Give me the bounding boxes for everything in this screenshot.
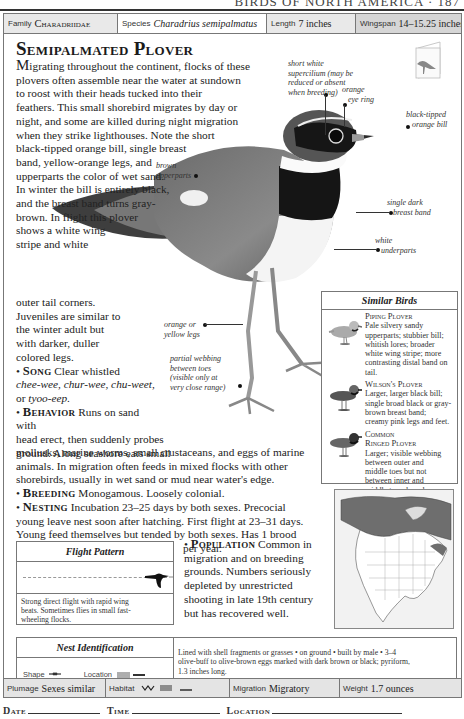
annotation-line: white xyxy=(375,236,416,246)
flight-desc-line: beats. Sometimes flies in small fast- xyxy=(21,606,169,615)
intro-line: black-tipped orange bill, single breast xyxy=(16,142,316,156)
field-guide-icon xyxy=(412,40,446,80)
behavior-line: mollusks, marine worms, small crustacean… xyxy=(16,446,326,460)
population-section: • Population Common in migration and on … xyxy=(184,538,334,620)
population-line: grounds. Numbers seriously xyxy=(184,565,334,579)
migration-value: Migratory xyxy=(269,683,310,694)
log-time-field[interactable] xyxy=(132,705,220,714)
similar-bird-line: single broad black or gray- xyxy=(365,399,457,408)
flying-bird-icon xyxy=(143,566,173,590)
similar-bird-line: brown breast band; xyxy=(365,408,457,417)
song-calls: chee-wee, chur-wee, chu-weet, xyxy=(16,378,156,392)
range-map xyxy=(334,489,454,629)
behavior-section: • Behavior Runs on sand with xyxy=(16,406,156,433)
length-value: 7 inches xyxy=(298,18,331,29)
flight-pattern-description: Strong direct flight with rapid wing bea… xyxy=(17,594,173,627)
length-cell: Length 7 inches xyxy=(267,14,356,33)
similar-bird-name: Ringed Plover xyxy=(365,439,457,448)
habitat-label: Habitat xyxy=(109,684,134,693)
breeding-section: • Breeding Monogamous. Loosely colonial. xyxy=(16,487,326,501)
annotation-leader xyxy=(334,249,376,250)
intro-line: plovers often assemble near the water at… xyxy=(16,74,316,88)
song-calls-prefix: or xyxy=(16,392,25,404)
nesting-line: young leave nest soon after hatching. Fi… xyxy=(16,515,326,529)
nesting-line: Incubation 23–25 days by both sexes. Pre… xyxy=(71,501,286,513)
breeding-heading: Breeding xyxy=(23,486,76,500)
similar-bird-line: whitish lores; broader xyxy=(365,340,457,349)
flight-pattern-box: Flight Pattern Strong direct flight with… xyxy=(16,541,174,625)
similar-bird-name: Wilson's Plover xyxy=(365,380,457,389)
intro-line: when they strike lighthouses. Note the s… xyxy=(16,129,316,143)
length-label: Length xyxy=(271,19,295,28)
nesting-section: • Nesting Incubation 23–25 days by both … xyxy=(16,501,326,515)
intro-continued: outer tail corners. Juveniles are simila… xyxy=(16,296,156,460)
annotation-line: very close range) xyxy=(170,383,226,393)
log-date-field[interactable] xyxy=(28,705,100,714)
flight-desc-line: wheeling flocks. xyxy=(21,615,169,624)
weight-label: Weight xyxy=(343,684,368,693)
similar-bird-line: middle toes but not xyxy=(365,467,457,476)
similar-birds-box: Similar Birds Piping Plover Pale silvery… xyxy=(321,291,458,484)
population-line: but has recovered well. xyxy=(184,607,334,621)
similar-bird-line: Pale silvery sandy xyxy=(365,321,457,330)
annotation-leader xyxy=(344,105,345,127)
nest-desc-line: olive-buff to olive-brown eggs marked wi… xyxy=(178,657,448,666)
intro-line: feathers. This small shorebird migrates … xyxy=(16,101,316,115)
family-value: Charadriidae xyxy=(35,18,91,29)
shore-habitat-icon xyxy=(179,684,193,692)
flight-desc-line: Strong direct flight with rapid wing xyxy=(21,597,169,606)
similar-bird-line: white wing stripe; more xyxy=(365,349,457,358)
family-cell: Family Charadriidae xyxy=(4,14,118,33)
population-line: migration and on breeding xyxy=(184,552,334,566)
flight-pattern-title: Flight Pattern xyxy=(17,542,173,562)
piping-plover-icon xyxy=(326,318,362,346)
annotation-leader xyxy=(356,212,389,213)
similar-bird-line: upperparts; stubbier bill; xyxy=(365,331,457,340)
intro-line: outer tail corners. xyxy=(16,296,156,310)
annotation-dot xyxy=(406,125,410,129)
footer-bar: Plumage Sexes similar Habitat Migration … xyxy=(3,678,462,698)
similar-bird-line: creamy pink legs and feet. xyxy=(365,417,457,426)
nesting-heading: Nesting xyxy=(23,500,68,514)
similar-bird-text: Wilson's Plover Larger, larger black bil… xyxy=(365,380,457,426)
population-line: Common in xyxy=(258,538,312,550)
log-date-label: Date xyxy=(3,705,26,716)
annotation-webbing: partial webbing between toes (visible on… xyxy=(170,354,226,392)
annotation-leader xyxy=(205,324,243,325)
nest-desc-line: Lined with shell fragments or grasses • … xyxy=(178,648,448,657)
wingspan-cell: Wingspan 14–15.25 inches xyxy=(356,14,461,33)
family-label: Family xyxy=(8,19,32,28)
behavior-line: shorebirds, usually in wet sand or mud n… xyxy=(16,473,326,487)
wingspan-value: 14–15.25 inches xyxy=(399,18,461,29)
intro-line: colored legs. xyxy=(16,351,156,365)
scrape-nest-icon xyxy=(48,670,62,678)
similar-bird-line: tail. xyxy=(365,368,457,377)
nest-identification-title: Nest Identification xyxy=(17,638,173,658)
top-rule xyxy=(0,9,464,11)
intro-line: igrating throughout the continent, flock… xyxy=(29,60,250,72)
annotation-line: orange bill xyxy=(406,120,447,130)
song-heading: Song xyxy=(23,364,52,378)
habitat-cell: Habitat xyxy=(106,679,230,697)
weight-value: 1.7 ounces xyxy=(371,683,414,694)
intro-line: the winter adult but xyxy=(16,323,156,337)
migration-label: Migration xyxy=(233,684,266,693)
intro-line: stripe and white xyxy=(16,238,316,252)
similar-bird-text: Piping Plover Pale silvery sandy upperpa… xyxy=(365,312,457,377)
annotation-dot xyxy=(376,248,380,252)
population-heading: Population xyxy=(191,537,255,551)
log-location-field[interactable] xyxy=(272,705,402,714)
intro-line: with darker, duller xyxy=(16,337,156,351)
population-line: shooting in late 19th century xyxy=(184,593,334,607)
species-label: Species xyxy=(122,19,150,28)
annotation-line: between toes xyxy=(170,364,226,374)
annotation-line: yellow legs xyxy=(164,330,200,340)
intro-line: and the breast band turns gray- xyxy=(16,197,316,211)
intro-line: shows a white wing xyxy=(16,224,316,238)
similar-birds-title: Similar Birds xyxy=(322,292,457,310)
intro-line: to roost with their heads tucked into th… xyxy=(16,87,316,101)
annotation-leader xyxy=(325,95,326,135)
annotation-line: (visible only at xyxy=(170,373,226,383)
annotation-line: black-tipped xyxy=(406,110,447,120)
annotation-breast-band: single dark breast band xyxy=(387,198,431,217)
